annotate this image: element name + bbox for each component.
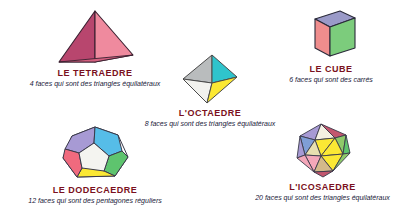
- solid-description-icosahedron: 20 faces qui sont des triangles équilaté…: [245, 194, 400, 201]
- solid-title-cube: LE CUBE: [262, 64, 400, 74]
- octahedron-icon: [178, 52, 242, 106]
- cube-icon: [302, 8, 360, 62]
- solid-title-octahedron: L'OCTAEDRE: [120, 108, 300, 118]
- solid-title-dodecahedron: LE DODECAEDRE: [0, 185, 190, 195]
- icosahedron-icon: [288, 122, 358, 180]
- dodecahedron-icon: [58, 125, 132, 183]
- solid-description-cube: 6 faces qui sont des carrés: [262, 76, 400, 83]
- solid-title-icosahedron: L'ICOSAEDRE: [245, 182, 400, 192]
- solid-card-dodecahedron: LE DODECAEDRE 12 faces qui sont des pent…: [0, 125, 190, 204]
- solid-card-icosahedron: L'ICOSAEDRE 20 faces qui sont des triang…: [245, 122, 400, 201]
- solid-card-cube: LE CUBE 6 faces qui sont des carrés: [262, 8, 400, 83]
- solid-description-dodecahedron: 12 faces qui sont des pentagones régulie…: [0, 197, 190, 204]
